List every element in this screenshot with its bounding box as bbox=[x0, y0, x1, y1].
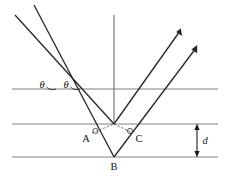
label-spacing-d: d bbox=[202, 135, 208, 146]
spacing-dimension-group bbox=[194, 124, 199, 158]
reflected-rays-group bbox=[114, 28, 197, 157]
label-theta-left: θ bbox=[39, 79, 44, 90]
diagram-canvas: θ θ A B C d bbox=[0, 0, 226, 182]
reflected-ray-lower bbox=[114, 48, 196, 157]
label-point-c: C bbox=[135, 133, 142, 144]
label-point-b: B bbox=[110, 161, 117, 172]
incident-ray-upper bbox=[15, 15, 114, 124]
label-theta-right: θ bbox=[63, 79, 68, 90]
incident-ray-lower bbox=[34, 5, 114, 157]
right-angle-mark-c bbox=[127, 128, 132, 133]
bragg-diffraction-figure: θ θ A B C d bbox=[0, 0, 226, 182]
label-point-a: A bbox=[82, 133, 90, 144]
reflected-ray-upper bbox=[114, 31, 180, 124]
